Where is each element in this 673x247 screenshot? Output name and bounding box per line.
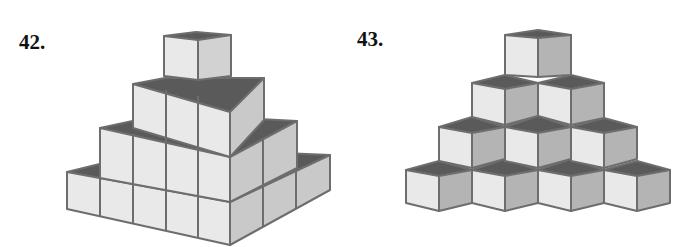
row2-cube1 (439, 117, 505, 168)
row3-cube1 (472, 75, 538, 125)
row4-cube1 (505, 30, 571, 77)
row2-cube2 (505, 116, 571, 168)
row1-cube1 (406, 161, 472, 211)
row3-cube2 (538, 75, 604, 125)
figure-43-stack (406, 30, 670, 211)
row1-cube4 (604, 161, 670, 211)
cube-figures-canvas (0, 0, 673, 247)
figure-42-pyramid (67, 32, 330, 245)
top-cube-left-face (164, 36, 198, 80)
top-cube-right-face (198, 35, 231, 80)
row2-cube3 (571, 118, 637, 168)
